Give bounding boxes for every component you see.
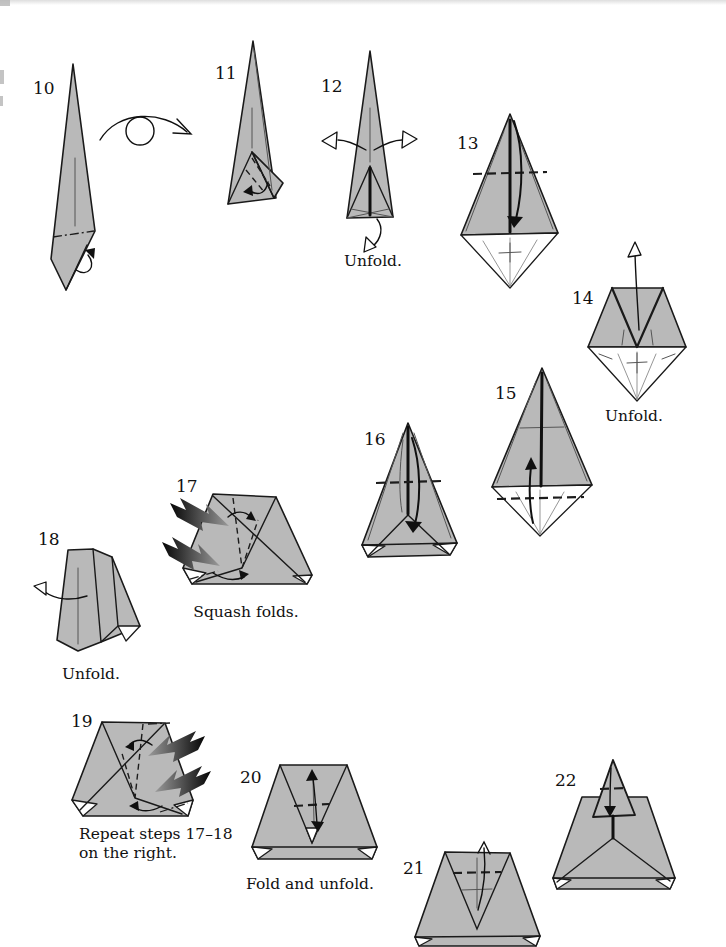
turn-over-icon <box>100 116 191 145</box>
step-20-caption: Fold and unfold. <box>246 875 374 893</box>
step-19: 19 Repeat steps 17–18 on the right. <box>71 711 233 862</box>
step-11-number: 11 <box>215 63 237 83</box>
step-17-number: 17 <box>176 476 198 496</box>
bold-edge <box>541 373 542 486</box>
step-13: 13 <box>457 114 558 288</box>
turn-over-circle <box>126 117 154 145</box>
step-20-number: 20 <box>240 767 262 787</box>
step-15: 15 <box>492 368 592 536</box>
white-corner <box>118 626 140 641</box>
step-22-number: 22 <box>555 770 577 790</box>
step-20: 20 Fold and unfold. <box>240 765 377 893</box>
step-21-number: 21 <box>403 858 425 878</box>
step-17: 17 Squash folds. <box>162 476 312 621</box>
step-15-number: 15 <box>495 383 517 403</box>
step-12-number: 12 <box>321 76 343 96</box>
white-underside <box>492 485 592 536</box>
hollow-arrowhead-icon <box>364 237 376 252</box>
step-12: 12 Unfold. <box>321 51 417 270</box>
step-10-number: 10 <box>33 78 55 98</box>
step-12-caption: Unfold. <box>344 252 402 270</box>
step-21: 21 <box>403 842 540 946</box>
step-16-number: 16 <box>364 429 386 449</box>
step-19-caption-line1: Repeat steps 17–18 <box>79 825 233 843</box>
step-18-caption: Unfold. <box>62 665 120 683</box>
step-10: 10 <box>33 64 95 290</box>
step-19-number: 19 <box>71 711 93 731</box>
diagram-canvas: 10 11 12 <box>0 0 726 947</box>
step-14: 14 Unfold. <box>572 242 686 425</box>
hollow-arrowhead-icon <box>628 242 641 257</box>
hollow-arrowhead-icon <box>322 132 337 149</box>
hollow-arrowhead-icon <box>402 131 417 148</box>
step-18: 18 Unfold. <box>34 529 140 683</box>
step-14-number: 14 <box>572 288 594 308</box>
step-22: 22 <box>553 760 675 889</box>
step-19-caption-line2: on the right. <box>79 844 177 862</box>
unfold-arrow <box>373 219 381 246</box>
turn-over-arc <box>100 116 187 140</box>
origami-page: 10 11 12 <box>0 0 726 947</box>
step-16: 16 <box>362 423 457 557</box>
step-13-number: 13 <box>457 133 479 153</box>
step-17-caption: Squash folds. <box>193 603 298 621</box>
step-11: 11 <box>215 41 283 204</box>
hollow-arrowhead-icon <box>34 582 46 595</box>
paper-shape <box>72 722 193 816</box>
step-18-number: 18 <box>38 529 60 549</box>
step-14-caption: Unfold. <box>605 407 663 425</box>
arrowhead-icon <box>173 119 191 134</box>
